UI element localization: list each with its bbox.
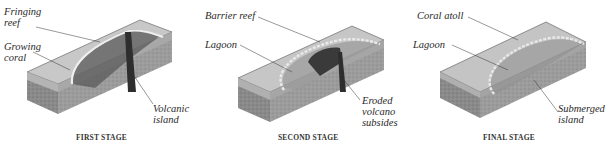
- label-eroded-volcano-subsides: Eroded volcano subsides: [362, 95, 398, 128]
- label-volcanic-island: Volcanic island: [153, 103, 189, 125]
- stage-caption-second: SECOND STAGE: [278, 133, 338, 142]
- label-lagoon: Lagoon: [413, 39, 445, 50]
- stage-caption-first: FIRST STAGE: [76, 133, 127, 142]
- label-growing-coral: Growing coral: [4, 41, 41, 63]
- label-submerged-island: Submerged island: [558, 103, 605, 125]
- label-barrier-reef: Barrier reef: [205, 10, 255, 21]
- final-stage-panel: Coral atoll Lagoon Submerged island FINA…: [400, 0, 611, 145]
- label-coral-atoll: Coral atoll: [417, 10, 463, 21]
- label-fringing-reef: Fringing reef: [4, 6, 41, 28]
- label-lagoon: Lagoon: [205, 39, 237, 50]
- stage-caption-final: FINAL STAGE: [483, 133, 535, 142]
- second-stage-panel: Barrier reef Lagoon Eroded volcano subsi…: [200, 0, 405, 145]
- first-stage-panel: Fringing reef Growing coral Volcanic isl…: [0, 0, 205, 145]
